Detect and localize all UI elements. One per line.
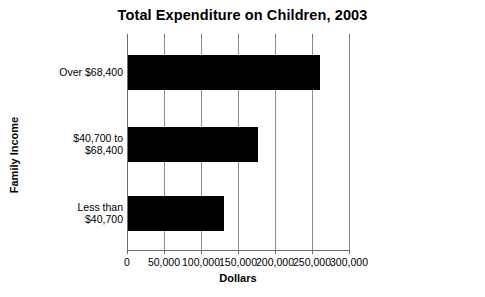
x-axis-tick-label: 250,000 [293, 256, 331, 268]
y-axis-category-label: Over $68,400 [59, 66, 123, 79]
x-axis-tick-top [201, 34, 202, 38]
plot-area [127, 38, 349, 250]
x-axis-tick [275, 250, 276, 254]
x-axis-tick-label: 0 [124, 256, 130, 268]
x-axis-tick [127, 250, 128, 254]
x-axis-tick-top [312, 34, 313, 38]
chart-title: Total Expenditure on Children, 2003 [0, 7, 485, 23]
x-axis-title: Dollars [127, 272, 349, 284]
x-axis-tick [164, 250, 165, 254]
y-axis-title: Family Income [8, 100, 22, 210]
x-axis-tick [349, 250, 350, 254]
y-axis-category-label: Less than $40,700 [77, 201, 123, 226]
x-axis-tick-top [349, 34, 350, 38]
x-axis-tick-top [164, 34, 165, 38]
x-axis-tick [312, 250, 313, 254]
gridline [349, 38, 350, 250]
x-axis-tick [201, 250, 202, 254]
x-axis-tick-top [127, 34, 128, 38]
x-axis-tick-label: 100,000 [182, 256, 220, 268]
y-axis-category-label: $40,700 to $68,400 [73, 132, 123, 157]
bar-chart: Total Expenditure on Children, 2003 Fami… [0, 0, 485, 297]
x-axis-tick-top [238, 34, 239, 38]
x-axis-tick-top [275, 34, 276, 38]
x-axis-tick [238, 250, 239, 254]
bar [128, 196, 224, 231]
x-axis-tick-label: 150,000 [219, 256, 257, 268]
bar [128, 127, 258, 162]
bar [128, 55, 320, 90]
x-axis-tick-label: 200,000 [256, 256, 294, 268]
x-axis-tick-label: 50,000 [148, 256, 180, 268]
x-axis-tick-label: 300,000 [330, 256, 368, 268]
